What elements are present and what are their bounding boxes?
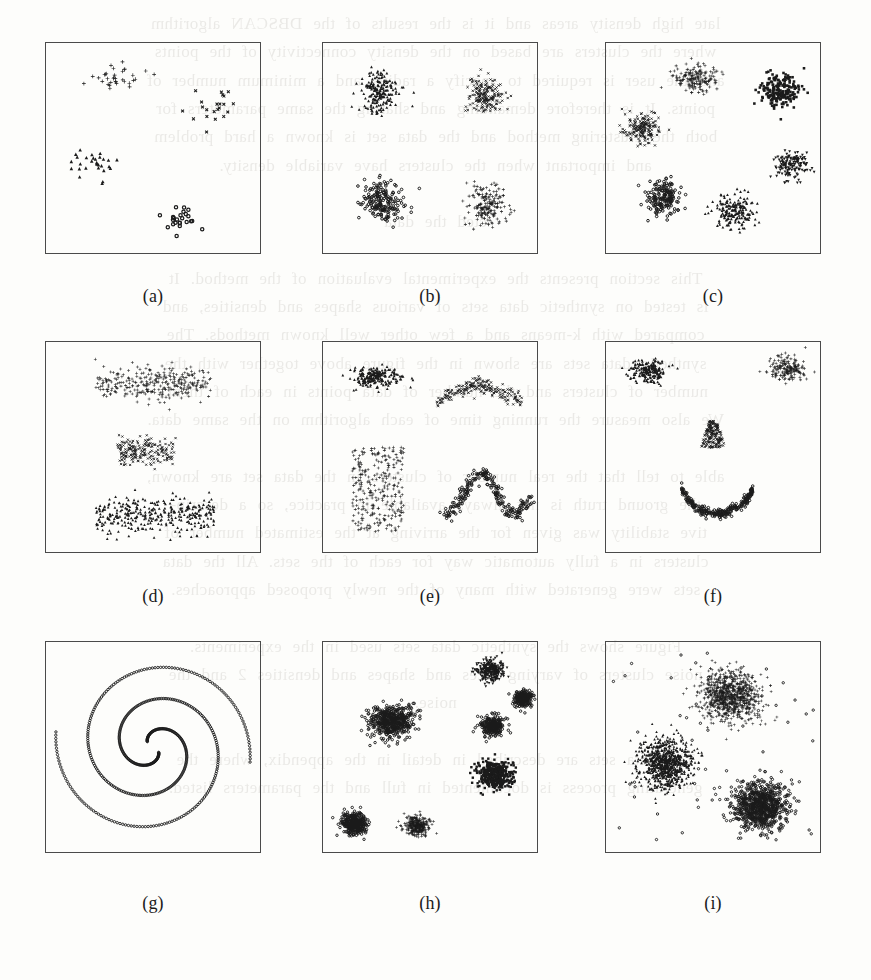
cluster-circle <box>711 769 800 841</box>
scatter-panel-e <box>322 341 538 553</box>
cluster-circle <box>472 712 512 743</box>
panel-caption-b: (b) <box>322 286 538 307</box>
figure-panel-grid: (a) (b) (c) (d) (e) (f) (g) (h) (i) <box>0 0 871 980</box>
cluster-circle <box>331 806 370 840</box>
cluster-square <box>469 753 517 796</box>
cluster-plus <box>758 346 816 385</box>
cluster-triangle <box>704 188 761 234</box>
cluster-circle <box>55 697 220 828</box>
cluster-triangle <box>341 363 414 393</box>
cluster-triangle <box>95 488 216 540</box>
scatter-panel-h <box>322 641 538 853</box>
panel-plot-e <box>322 341 538 553</box>
cluster-triangle <box>623 723 703 804</box>
scatter-panel-a <box>45 42 261 254</box>
cluster-plus <box>682 659 778 740</box>
scatter-panel-g <box>45 641 261 853</box>
cluster-x <box>116 434 176 470</box>
panel-caption-h: (h) <box>322 893 538 914</box>
panel-caption-d: (d) <box>45 586 261 607</box>
cluster-x <box>701 420 725 449</box>
cluster-x <box>619 108 671 147</box>
panel-plot-i <box>605 641 821 853</box>
cluster-triangle <box>70 148 119 185</box>
panel-plot-d <box>45 341 261 553</box>
scatter-panel-c <box>605 42 821 254</box>
cluster-plus <box>660 57 725 96</box>
panel-plot-c <box>605 42 821 254</box>
cluster-down-tri <box>769 149 815 184</box>
cluster-x <box>181 89 235 133</box>
scatter-panel-b <box>322 42 538 254</box>
panel-caption-e: (e) <box>322 586 538 607</box>
panel-caption-g: (g) <box>45 893 261 914</box>
scatter-panel-i <box>605 641 821 853</box>
panel-plot-h <box>322 641 538 853</box>
cluster-circle <box>680 482 754 521</box>
cluster-plus <box>351 446 405 533</box>
scatter-panel-f <box>605 341 821 553</box>
cluster-down-tri <box>471 652 510 688</box>
cluster-plus <box>395 810 438 838</box>
cluster-triangle <box>621 357 679 387</box>
cluster-circle <box>87 666 252 797</box>
panel-caption-a: (a) <box>45 286 261 307</box>
panel-caption-c: (c) <box>605 286 821 307</box>
panel-plot-a <box>45 42 261 254</box>
scatter-panel-d <box>45 341 261 553</box>
cluster-x <box>436 375 523 407</box>
panel-plot-g <box>45 641 261 853</box>
panel-caption-i: (i) <box>605 893 821 914</box>
cluster-plus <box>94 358 212 411</box>
panel-plot-f <box>605 341 821 553</box>
cluster-triangle <box>350 66 415 118</box>
cluster-circle <box>158 206 204 238</box>
cluster-circle <box>360 699 422 747</box>
cluster-circle <box>637 175 687 222</box>
cluster-circle <box>508 688 536 715</box>
panel-plot-b <box>322 42 538 254</box>
cluster-square <box>753 67 809 121</box>
cluster-circle <box>439 468 536 523</box>
panel-caption-f: (f) <box>605 586 821 607</box>
cluster-x <box>464 68 512 112</box>
cluster-plus <box>82 60 156 90</box>
cluster-plus <box>461 180 515 231</box>
cluster-circle <box>357 174 421 228</box>
